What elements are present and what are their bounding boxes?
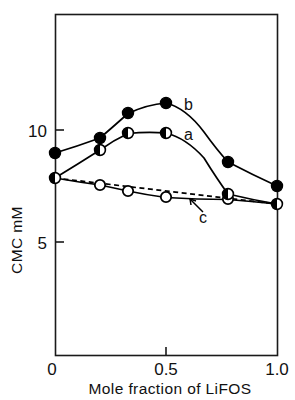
curve-c-markers — [95, 180, 233, 204]
data-point-b-4 — [222, 156, 233, 167]
x-tick-label-0point5: 0.5 — [154, 360, 178, 379]
data-point-a-2 — [123, 128, 134, 139]
y-axis-title: CMC mM — [8, 206, 25, 274]
data-point-c-2 — [123, 186, 133, 196]
data-point-a-5 — [272, 199, 283, 210]
chart-svg: b a c 10 5 0 0.5 1.0 Mole fraction of Li… — [0, 0, 295, 400]
data-point-a-1 — [95, 145, 106, 156]
data-point-b-3 — [160, 97, 171, 108]
data-point-b-1 — [94, 132, 105, 143]
curve-label-b: b — [184, 96, 193, 113]
data-point-c-3 — [161, 192, 171, 202]
data-point-b-2 — [122, 107, 133, 118]
curve-label-c: c — [199, 209, 207, 226]
plot-frame — [56, 15, 278, 356]
data-point-a-0 — [50, 173, 61, 184]
data-point-b-0 — [49, 147, 60, 158]
data-point-c-1 — [95, 180, 105, 190]
x-axis-title: Mole fraction of LiFOS — [89, 380, 252, 397]
y-tick-label-5: 5 — [38, 234, 47, 253]
curve-b-markers — [49, 97, 282, 191]
cmc-mole-fraction-chart: b a c 10 5 0 0.5 1.0 Mole fraction of Li… — [0, 0, 295, 400]
data-point-a-3 — [161, 128, 172, 139]
data-point-a-4 — [223, 189, 234, 200]
x-tick-label-0: 0 — [47, 360, 56, 379]
data-point-b-5 — [271, 180, 282, 191]
curve-b-line — [55, 103, 277, 186]
curve-label-a: a — [184, 126, 193, 143]
x-tick-label-1point0: 1.0 — [265, 360, 289, 379]
y-tick-label-10: 10 — [28, 122, 47, 141]
